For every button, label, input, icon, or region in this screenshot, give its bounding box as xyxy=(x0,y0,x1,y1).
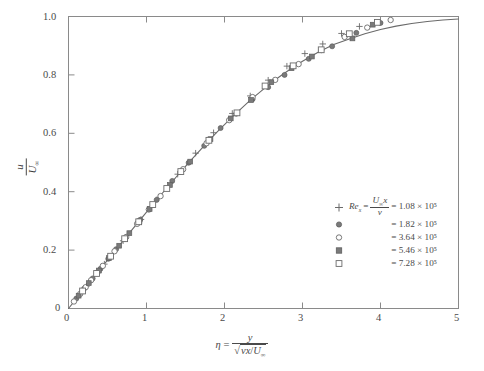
figure-blasius-velocity-profile: u U∞ 1.0 0.8 0.6 0.4 0.2 0 0 1 2 3 4 5 η… xyxy=(0,0,484,371)
x-axis-label-U-sub: ∞ xyxy=(261,351,266,358)
plot-area xyxy=(0,0,484,371)
legend-row-2: = 3.64 × 10⁵ xyxy=(332,231,437,244)
legend-marker-plus-icon xyxy=(332,201,347,213)
legend-header-equals: = xyxy=(362,196,369,218)
x-axis-label-denominator: √νx/U∞ xyxy=(232,343,269,358)
x-axis-label-equals: = xyxy=(223,339,229,350)
legend-row-0: Rex = U∞x ν = 1.08 × 10⁵ xyxy=(332,196,437,218)
legend-marker-open-square-icon xyxy=(332,257,347,269)
data-series-3 xyxy=(76,22,375,298)
legend-header-symbol: Rex xyxy=(349,196,362,218)
legend-marker-filled-square-icon xyxy=(332,244,347,256)
legend-row-3: = 5.46 × 10⁵ xyxy=(332,244,437,257)
legend: Rex = U∞x ν = 1.08 × 10⁵ = 1.82 × 10⁵ = xyxy=(332,196,437,270)
x-axis-label: η = y √νx/U∞ xyxy=(0,332,484,358)
x-axis-label-U: U xyxy=(253,345,261,356)
legend-row-4: = 7.28 × 10⁵ xyxy=(332,257,437,270)
x-axis-label-numerator: y xyxy=(232,332,269,343)
legend-header-fraction: U∞x ν xyxy=(369,196,390,218)
legend-value-2: = 3.64 × 10⁵ xyxy=(390,231,437,244)
legend-value-1: = 1.82 × 10⁵ xyxy=(390,218,437,231)
data-series-0 xyxy=(83,23,362,289)
legend-value-4: = 7.28 × 10⁵ xyxy=(390,257,437,270)
x-axis-label-eta: η xyxy=(216,339,221,350)
legend-value-3: = 5.46 × 10⁵ xyxy=(390,244,437,257)
legend-row-1: = 1.82 × 10⁵ xyxy=(332,218,437,231)
legend-marker-filled-circle-icon xyxy=(332,218,347,230)
legend-marker-open-circle-icon xyxy=(332,231,347,243)
legend-value-0: = 1.08 × 10⁵ xyxy=(390,196,437,218)
